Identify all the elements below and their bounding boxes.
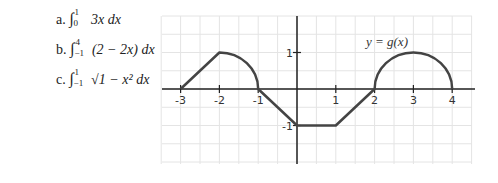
graph-g: y = g(x) -3-2-112341-1 — [0, 0, 498, 183]
svg-text:4: 4 — [449, 94, 456, 107]
svg-text:1: 1 — [332, 94, 339, 107]
svg-text:1: 1 — [286, 47, 293, 60]
function-label: y = g(x) — [364, 34, 408, 49]
svg-text:-3: -3 — [175, 94, 186, 107]
svg-text:-1: -1 — [282, 120, 293, 133]
svg-text:2: 2 — [371, 94, 378, 107]
svg-text:-1: -1 — [253, 94, 264, 107]
svg-text:-2: -2 — [214, 94, 225, 107]
grid — [161, 16, 472, 164]
svg-text:3: 3 — [410, 94, 417, 107]
